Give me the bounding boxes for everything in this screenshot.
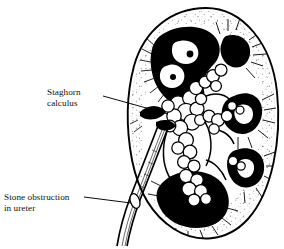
illustration-canvas: Staghorn calculus Stone obstruction in u… xyxy=(0,0,284,249)
leader-line-ureter xyxy=(84,197,131,203)
label-stone-obstruction-in-ureter: Stone obstruction in ureter xyxy=(4,192,69,215)
label-staghorn-calculus: Staghorn calculus xyxy=(47,87,81,110)
